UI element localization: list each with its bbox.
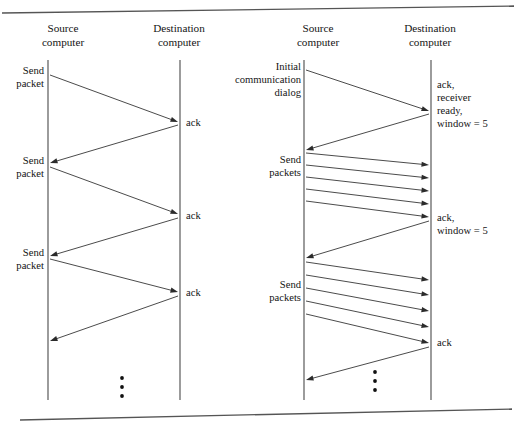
ack-receiver-ready-label-line3: ready, [437,105,463,116]
sliding-window-packet-arrow-2-head [421,175,429,180]
ack-label-3-line1: ack [186,287,201,298]
stop-and-wait-source-header: Sourcecomputer [42,22,85,48]
stop-and-wait-ack-arrow-2-head [50,251,58,256]
sliding-window-source-header: Sourcecomputer [297,22,340,48]
sliding-window-window-ack-arrow-shaft [311,221,429,256]
source-header-line1: Source [302,22,333,34]
ack-window-label-line1: ack, [437,212,454,223]
sliding-window-packet-arrow-7 [306,275,429,296]
continuation-ellipsis-dot-3 [120,394,124,398]
sliding-window-packet-arrow-1-shaft [306,153,424,164]
continuation-ellipsis-dot-1 [373,370,377,374]
ack-window-label-line2: window = 5 [437,225,488,236]
sliding-window-window-ack-arrow-head [306,253,314,258]
sliding-window-initial-ack-arrow-shaft [311,114,429,148]
stop-and-wait-continuation-ellipsis [120,376,124,398]
sliding-window-packet-arrow-5-shaft [306,201,424,216]
initial-dialog-label-line3: dialog [275,87,302,98]
sliding-window-packet-arrow-4-shaft [306,189,424,203]
sliding-window-destination-header: Destinationcomputer [404,22,456,48]
stop-and-wait-ack-arrow-3-shaft [55,296,178,339]
stop-and-wait-ack-label-2: ack [186,210,201,221]
sliding-window-packet-arrow-9-shaft [306,301,424,326]
bottom-rule [20,409,512,420]
sliding-window-packet-arrow-10-shaft [306,314,424,342]
stop-and-wait-packet-arrow-3-shaft [50,259,173,291]
stop-and-wait-ack-arrow-3 [50,296,178,341]
send-packets-label-1-line2: packets [269,167,301,178]
initial-dialog-label-line2: communication [235,74,302,85]
send-packet-label-2-line1: Send [23,155,45,166]
stop-and-wait-ack-arrow-2-shaft [55,218,178,254]
sliding-window-packet-arrow-3 [306,177,429,193]
sliding-window-ack-label-final: ack [437,337,452,348]
sliding-window-packet-arrow-1-head [421,162,429,167]
send-packet-label-2-line2: packet [16,168,44,179]
ack-receiver-ready-label-line1: ack, [437,79,454,90]
stop-and-wait-send-packet-label-1: Sendpacket [16,65,44,89]
sliding-window-packet-arrow-6 [306,262,429,281]
stop-and-wait-packet-arrow-1 [50,75,178,122]
destination-header-line1: Destination [404,22,456,34]
sliding-window-initial-ack-arrow-head [306,145,314,150]
stop-and-wait-packet-arrow-3-head [170,288,178,293]
stop-and-wait-destination-header: Destinationcomputer [153,22,205,48]
sliding-window-send-packets-label-1: Sendpackets [269,154,301,178]
stop-and-wait-ack-label-3: ack [186,287,201,298]
sliding-window-packet-arrow-5 [306,201,429,219]
send-packet-label-1-line1: Send [23,65,45,76]
sliding-window-initial-dialog-arrow-shaft [306,70,424,109]
stop-and-wait-packet-arrow-2-head [170,209,178,214]
panel-sliding-window: SourcecomputerDestinationcomputerInitial… [235,22,488,400]
source-header-line2: computer [42,36,85,48]
stop-and-wait-packet-arrow-2-shaft [50,167,173,212]
stop-and-wait-packet-arrow-1-shaft [50,75,173,120]
send-packet-label-3-line2: packet [16,260,44,271]
sliding-window-ack-window-label: ack,window = 5 [437,212,488,236]
sliding-window-packet-arrow-2-shaft [306,165,424,177]
sliding-window-initial-dialog-label: Initialcommunicationdialog [235,61,302,98]
sliding-window-packet-arrow-4-head [421,201,429,206]
ack-label-1-line1: ack [186,117,201,128]
stop-and-wait-ack-arrow-3-head [50,336,58,341]
sliding-window-packet-arrow-6-shaft [306,262,424,279]
sliding-window-packet-arrow-9-head [421,323,429,328]
sliding-window-packet-arrow-9 [306,301,429,328]
sliding-window-packet-arrow-1 [306,153,429,167]
sliding-window-window-ack-arrow [306,221,429,258]
panel-stop-and-wait: SourcecomputerDestinationcomputerSendpac… [16,22,205,400]
source-header-line2: computer [297,36,340,48]
stop-and-wait-packet-arrow-3 [50,259,178,293]
ack-receiver-ready-label-line2: receiver [437,92,472,103]
sliding-window-ack-receiver-ready-label: ack,receiverready,window = 5 [437,79,488,129]
send-packet-label-3-line1: Send [23,247,45,258]
top-rule [2,6,514,13]
ack-label-2-line1: ack [186,210,201,221]
sliding-window-initial-dialog-arrow [306,70,429,111]
sliding-window-final-ack-arrow-shaft [311,347,429,379]
destination-header-line1: Destination [153,22,205,34]
continuation-ellipsis-dot-2 [120,385,124,389]
stop-and-wait-ack-arrow-2 [50,218,178,256]
stop-and-wait-send-packet-label-2: Sendpacket [16,155,44,179]
continuation-ellipsis-dot-2 [373,379,377,383]
sliding-window-packet-arrow-7-head [421,291,429,296]
sliding-window-packet-arrow-10 [306,314,429,344]
stop-and-wait-send-packet-label-3: Sendpacket [16,247,44,271]
figure-root: SourcecomputerDestinationcomputerSendpac… [0,0,517,432]
stop-and-wait-ack-arrow-1-shaft [55,125,178,161]
stop-and-wait-ack-arrow-1 [50,125,178,163]
continuation-ellipsis-dot-1 [120,376,124,380]
stop-and-wait-ack-label-1: ack [186,117,201,128]
sliding-window-send-packets-label-2: Sendpackets [269,279,301,303]
sliding-window-packet-arrow-8-head [421,307,429,312]
ack-label-final-line1: ack [437,337,452,348]
stop-and-wait-ack-arrow-1-head [50,158,58,163]
send-packets-label-2-line1: Send [280,279,302,290]
destination-header-line2: computer [158,36,201,48]
destination-header-line2: computer [409,36,452,48]
sliding-window-packet-arrow-10-head [421,339,429,344]
sliding-window-continuation-ellipsis [373,370,377,392]
sliding-window-packet-arrow-3-shaft [306,177,424,190]
sliding-window-final-ack-arrow-head [306,376,314,381]
